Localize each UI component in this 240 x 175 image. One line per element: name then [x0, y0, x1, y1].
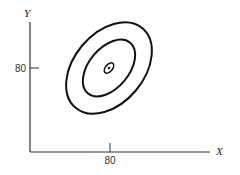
x-axis-label: X — [215, 145, 224, 157]
contour-diagram: 80 80 Y X — [0, 0, 240, 175]
center-point — [107, 66, 110, 69]
x-tick-label: 80 — [104, 155, 116, 166]
y-tick-label: 80 — [15, 63, 27, 74]
y-axis-label: Y — [24, 7, 32, 19]
contour-group — [49, 6, 169, 131]
